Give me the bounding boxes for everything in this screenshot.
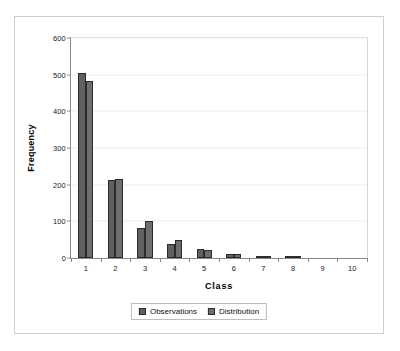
bar-group (108, 38, 123, 258)
bar-group (78, 38, 93, 258)
x-tick-mark (249, 258, 250, 262)
bar-group (137, 38, 152, 258)
bar (226, 254, 234, 258)
x-tick-label: 1 (84, 264, 88, 273)
x-tick-label: 6 (232, 264, 236, 273)
legend-swatch-icon (208, 308, 215, 315)
x-tick-label: 9 (321, 264, 325, 273)
bar (197, 249, 205, 258)
bar-group (345, 38, 360, 258)
chart-frame: Frequency 0100200300400500600 1234567891… (14, 16, 384, 334)
x-tick-mark (308, 258, 309, 262)
legend-label: Observations (150, 307, 197, 316)
legend-swatch-icon (139, 308, 146, 315)
x-tick-label: 4 (173, 264, 177, 273)
x-tick-mark (219, 258, 220, 262)
bar (137, 228, 145, 258)
x-tick-label: 2 (113, 264, 117, 273)
x-tick-label: 5 (202, 264, 206, 273)
x-tick-mark (367, 258, 368, 262)
bar (263, 256, 271, 258)
y-axis-title: Frequency (26, 124, 36, 171)
bar-group (315, 38, 330, 258)
x-tick-label: 3 (143, 264, 147, 273)
bar-group (256, 38, 271, 258)
x-tick-mark (71, 258, 72, 262)
x-tick-label: 7 (261, 264, 265, 273)
y-tick-label: 200 (53, 180, 66, 189)
bar (175, 240, 183, 258)
bar (256, 256, 264, 258)
bar (115, 179, 123, 258)
bar (293, 256, 301, 258)
legend-label: Distribution (219, 307, 259, 316)
x-tick-mark (160, 258, 161, 262)
bar (167, 244, 175, 258)
legend-entry[interactable]: Distribution (208, 307, 259, 316)
bar-group (167, 38, 182, 258)
x-axis-title: Class (70, 281, 368, 291)
y-tick-label: 0 (62, 254, 66, 263)
chart-legend: ObservationsDistribution (131, 303, 267, 320)
y-tick-label: 100 (53, 217, 66, 226)
x-tick-mark (130, 258, 131, 262)
x-tick-label: 8 (291, 264, 295, 273)
x-tick-mark (278, 258, 279, 262)
plot-area: 0100200300400500600 12345678910 (70, 37, 368, 259)
bar (285, 256, 293, 258)
y-tick-label: 300 (53, 144, 66, 153)
y-tick-label: 600 (53, 34, 66, 43)
x-tick-mark (189, 258, 190, 262)
y-tick-label: 500 (53, 70, 66, 79)
bar (234, 254, 242, 258)
bar (86, 81, 94, 258)
bars-layer (71, 38, 367, 258)
bar (145, 221, 153, 258)
bar-group (226, 38, 241, 258)
x-tick-mark (337, 258, 338, 262)
y-tick-label: 400 (53, 107, 66, 116)
x-tick-label: 10 (348, 264, 356, 273)
bar (108, 180, 116, 258)
bar-group (197, 38, 212, 258)
bar-group (285, 38, 300, 258)
bar (204, 250, 212, 258)
legend-entry[interactable]: Observations (139, 307, 197, 316)
bar (78, 73, 86, 258)
x-tick-mark (101, 258, 102, 262)
